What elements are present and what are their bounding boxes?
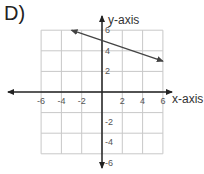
svg-text:-2: -2 — [78, 96, 86, 106]
svg-text:-4: -4 — [105, 137, 113, 147]
coordinate-plane: x-axisy-axis -6-4-2246642-2-4-6 — [0, 0, 204, 174]
svg-text:-6: -6 — [37, 96, 45, 106]
tick-labels: -6-4-2246642-2-4-6 — [37, 25, 165, 168]
svg-text:2: 2 — [105, 66, 110, 76]
plotted-line — [72, 30, 163, 61]
svg-text:-4: -4 — [57, 96, 65, 106]
svg-text:-6: -6 — [105, 158, 113, 168]
svg-text:2: 2 — [120, 96, 125, 106]
svg-text:-2: -2 — [105, 117, 113, 127]
svg-text:y-axis: y-axis — [108, 13, 139, 27]
svg-text:6: 6 — [105, 25, 110, 35]
svg-text:x-axis: x-axis — [172, 92, 203, 106]
svg-text:6: 6 — [160, 96, 165, 106]
svg-text:4: 4 — [105, 46, 110, 56]
svg-text:4: 4 — [140, 96, 145, 106]
